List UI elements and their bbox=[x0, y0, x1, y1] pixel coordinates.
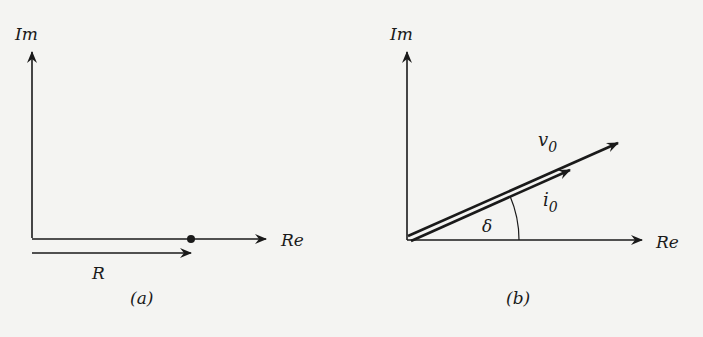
delta-arc bbox=[510, 196, 519, 240]
point-r bbox=[187, 235, 195, 243]
re-label: Re bbox=[280, 230, 304, 250]
delta-label: δ bbox=[482, 216, 492, 236]
caption-b: (b) bbox=[506, 288, 530, 308]
panel-a: Im Re R (a) bbox=[14, 24, 304, 308]
im-label: Im bbox=[14, 24, 38, 44]
panel-b: Im Re v0 i0 δ (b) bbox=[389, 24, 679, 308]
v0-vector bbox=[408, 143, 618, 236]
r-label: R bbox=[91, 263, 105, 283]
phasor-diagrams: Im Re R (a) Im Re v0 i0 δ (b) bbox=[0, 0, 703, 337]
i0-label: i0 bbox=[543, 189, 558, 215]
caption-a: (a) bbox=[130, 288, 153, 308]
im-label: Im bbox=[389, 24, 413, 44]
re-label: Re bbox=[655, 232, 679, 252]
v0-label: v0 bbox=[538, 129, 557, 155]
